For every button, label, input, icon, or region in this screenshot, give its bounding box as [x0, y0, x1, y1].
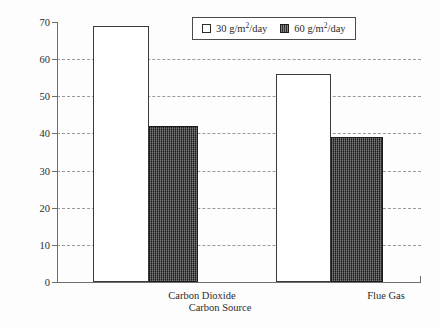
chart-figure: Biodiesel Production Cost ($ per barrel)… — [0, 0, 440, 327]
bar-carbon-dioxide-series1 — [93, 26, 149, 282]
bar-flue-gas-series2 — [331, 137, 383, 282]
plot-area: 010203040506070 Carbon DioxideFlue Gas — [57, 22, 421, 282]
legend-label-60: 60 g/m2/day — [294, 23, 345, 34]
legend-item-60: 60 g/m2/day — [280, 23, 345, 34]
y-tick-mark — [52, 208, 58, 209]
x-category-label: Flue Gas — [367, 290, 405, 301]
x-axis-line — [57, 282, 421, 283]
y-tick-label: 0 — [45, 277, 50, 288]
y-tick-mark — [52, 171, 58, 172]
y-tick-label: 40 — [40, 128, 51, 139]
y-tick-mark — [52, 245, 58, 246]
x-axis-endcap — [420, 276, 421, 283]
y-tick-mark — [52, 22, 58, 23]
y-tick-mark — [52, 282, 58, 283]
y-axis-line — [57, 22, 58, 282]
x-axis-title: Carbon Source — [0, 302, 440, 313]
legend-item-30: 30 g/m2/day — [202, 23, 267, 34]
bar-flue-gas-series1 — [276, 74, 331, 282]
y-tick-label: 60 — [40, 54, 51, 65]
y-tick-mark — [52, 133, 58, 134]
legend-label-30: 30 g/m2/day — [216, 23, 267, 34]
x-category-label: Carbon Dioxide — [168, 290, 235, 301]
legend-swatch-light-icon — [202, 24, 211, 33]
y-tick-label: 10 — [40, 239, 51, 250]
chart-legend: 30 g/m2/day 60 g/m2/day — [192, 17, 356, 40]
y-tick-label: 20 — [40, 202, 51, 213]
y-tick-mark — [52, 96, 58, 97]
y-tick-label: 70 — [40, 17, 51, 28]
legend-swatch-dark-icon — [280, 24, 289, 33]
y-tick-label: 50 — [40, 91, 51, 102]
y-tick-label: 30 — [40, 165, 51, 176]
y-tick-mark — [52, 59, 58, 60]
bar-carbon-dioxide-series2 — [149, 126, 198, 282]
